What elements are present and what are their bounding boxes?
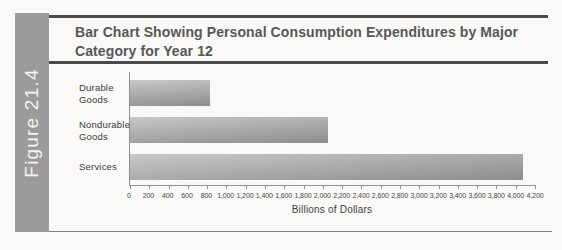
x-axis-tick bbox=[149, 185, 150, 189]
x-axis-tick-label: 3,800 bbox=[488, 192, 505, 199]
x-axis-tick-label: 2,200 bbox=[333, 192, 350, 199]
x-axis-tick bbox=[439, 185, 440, 189]
x-axis-tick-label: 2,000 bbox=[314, 192, 331, 199]
x-axis-tick-label: 200 bbox=[143, 192, 154, 199]
x-axis-tick-label: 1,800 bbox=[294, 192, 311, 199]
x-axis-tick-label: 800 bbox=[201, 192, 212, 199]
figure-number-label: Figure 21.4 bbox=[21, 68, 43, 177]
figure-number-sidebar: Figure 21.4 bbox=[15, 13, 49, 232]
category-label-services: Services bbox=[79, 161, 131, 173]
x-axis-tick-label: 0 bbox=[127, 192, 131, 199]
x-axis-tick bbox=[207, 185, 208, 189]
x-axis-tick bbox=[169, 185, 170, 189]
plot-area bbox=[129, 72, 535, 186]
x-axis-tick-label: 3,600 bbox=[468, 192, 485, 199]
x-axis-tick bbox=[130, 185, 131, 189]
x-axis-tick bbox=[535, 185, 536, 189]
x-axis-tick-labels: 02004006008001,0001,2001,4001,6001,8002,… bbox=[129, 192, 535, 202]
x-axis-tick bbox=[304, 185, 305, 189]
x-axis-tick-label: 2,400 bbox=[352, 192, 369, 199]
x-axis-tick bbox=[284, 185, 285, 189]
bar-services bbox=[130, 154, 523, 180]
x-axis-tick bbox=[323, 185, 324, 189]
x-axis-tick bbox=[496, 185, 497, 189]
x-axis-tick-label: 4,200 bbox=[526, 192, 543, 199]
x-axis-tick-label: 1,000 bbox=[217, 192, 234, 199]
bar-durable-goods bbox=[130, 80, 210, 106]
figure-title: Bar Chart Showing Personal Consumption E… bbox=[75, 23, 553, 61]
category-label-nondurable-goods: NondurableGoods bbox=[79, 119, 131, 142]
x-axis-tick bbox=[361, 185, 362, 189]
bar-nondurable-goods bbox=[130, 117, 328, 143]
x-axis-tick-label: 1,600 bbox=[275, 192, 292, 199]
x-axis-tick-label: 600 bbox=[181, 192, 192, 199]
x-axis-tick-label: 2,600 bbox=[372, 192, 389, 199]
x-axis-tick bbox=[419, 185, 420, 189]
x-axis-tick bbox=[188, 185, 189, 189]
x-axis-tick-label: 3,400 bbox=[449, 192, 466, 199]
figure-panel: Figure 21.4 Bar Chart Showing Personal C… bbox=[0, 0, 562, 250]
title-bottom-rule bbox=[49, 61, 548, 64]
x-axis-tick bbox=[226, 185, 227, 189]
title-top-rule bbox=[49, 15, 548, 18]
category-label-durable-goods: DurableGoods bbox=[79, 82, 131, 105]
x-axis-tick-label: 1,200 bbox=[236, 192, 253, 199]
x-axis-tick bbox=[458, 185, 459, 189]
x-axis-tick-label: 3,000 bbox=[410, 192, 427, 199]
x-axis-tick bbox=[477, 185, 478, 189]
x-axis-tick bbox=[342, 185, 343, 189]
x-axis-tick-label: 2,800 bbox=[391, 192, 408, 199]
x-axis-tick bbox=[400, 185, 401, 189]
x-axis-tick bbox=[265, 185, 266, 189]
x-axis-tick-label: 400 bbox=[162, 192, 173, 199]
x-axis-tick bbox=[246, 185, 247, 189]
x-axis-tick-label: 4,000 bbox=[507, 192, 524, 199]
x-axis-tick bbox=[516, 185, 517, 189]
x-axis-tick-label: 3,200 bbox=[430, 192, 447, 199]
x-axis-tick bbox=[381, 185, 382, 189]
x-axis-title: Billions of Dollars bbox=[129, 204, 535, 215]
x-axis-tick-label: 1,400 bbox=[256, 192, 273, 199]
figure-bottom-rule bbox=[49, 231, 552, 232]
